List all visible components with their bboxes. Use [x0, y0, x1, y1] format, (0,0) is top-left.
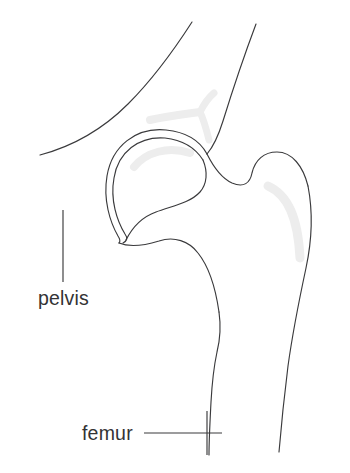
pelvis-annotation: pelvis — [38, 210, 89, 309]
pelvis-superior-border — [207, 24, 256, 154]
pelvis-trabecular-highlight-branch-2 — [200, 112, 209, 140]
femur-annotation: femur — [82, 411, 222, 455]
trochanter-highlight — [268, 186, 300, 258]
femoral-head — [126, 160, 206, 240]
pelvis-trabecular-highlight-branch — [200, 93, 214, 112]
femur-label: femur — [82, 422, 133, 444]
acetabulum-structure — [106, 130, 207, 243]
pelvis-label: pelvis — [38, 287, 89, 309]
femoral-neck-superior — [207, 152, 308, 186]
hip-anatomy-diagram: pelvis femur — [0, 0, 350, 473]
anatomy-illustration: pelvis femur — [0, 0, 350, 473]
femoral-neck-inferior — [119, 239, 219, 312]
acetabulum-highlight — [134, 150, 190, 167]
pelvis-inferior-border — [40, 22, 192, 155]
pelvis-structure — [40, 22, 256, 155]
pelvis-trabecular-highlight — [150, 112, 200, 120]
bone-highlight-group — [134, 93, 300, 258]
